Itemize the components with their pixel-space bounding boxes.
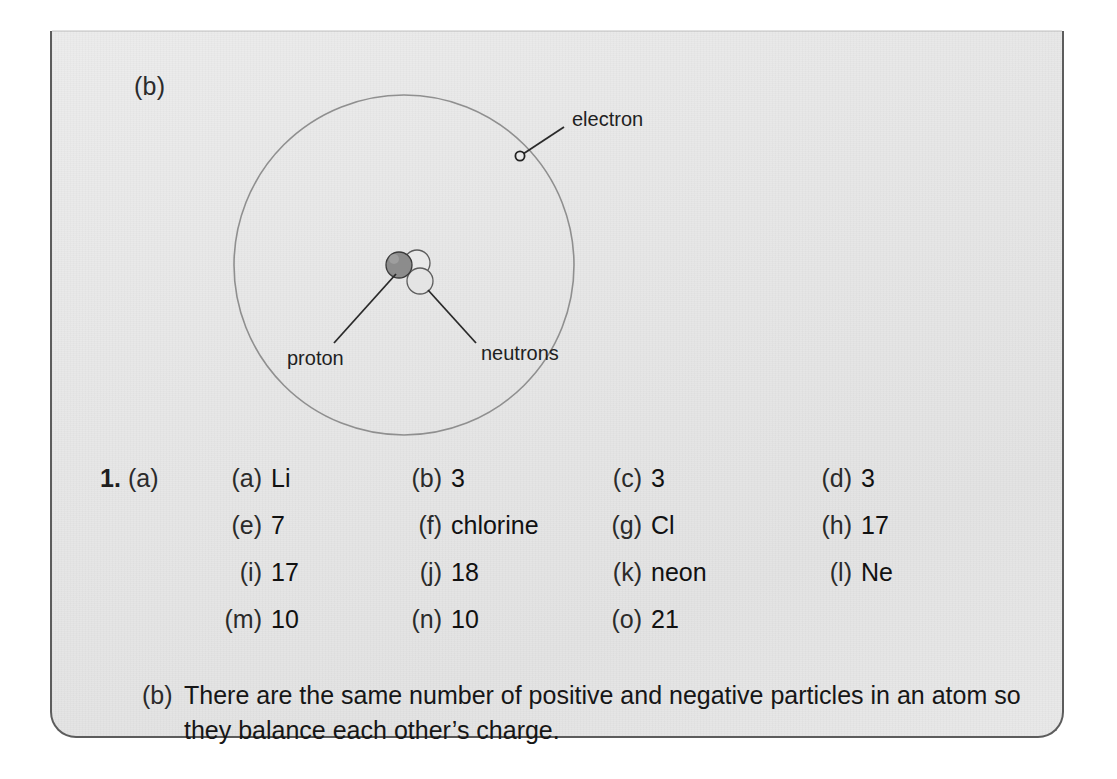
answer-panel: (b) electron [50, 28, 1064, 738]
closing-tag: (b) [142, 678, 173, 713]
neutrons-label: neutrons [481, 342, 559, 364]
answer-cell: (g)Cl [590, 511, 675, 540]
answer-cell: (i)17 [210, 558, 299, 587]
answer-row: (e)7 (f)chlorine (g)Cl (h)17 [100, 507, 1060, 554]
answer-tag: (d) [800, 464, 852, 493]
answer-cell: (e)7 [210, 511, 285, 540]
answer-value: chlorine [451, 511, 539, 539]
question-part: (a) [128, 464, 159, 493]
atom-diagram: electron proton neutrons [132, 50, 752, 450]
answer-tag: (h) [800, 511, 852, 540]
answer-tag: (j) [390, 558, 442, 587]
answer-value: Ne [861, 558, 893, 586]
answer-value: 10 [451, 605, 479, 633]
answer-tag: (i) [210, 558, 262, 587]
answer-tag: (e) [210, 511, 262, 540]
answer-tag: (l) [800, 558, 852, 587]
answer-tag: (c) [590, 464, 642, 493]
answer-cell: (o)21 [590, 605, 679, 634]
answer-tag: (k) [590, 558, 642, 587]
answer-value: Li [271, 464, 290, 492]
answer-value: neon [651, 558, 707, 586]
answer-value: 3 [861, 464, 875, 492]
answer-cell: (m)10 [210, 605, 299, 634]
answer-cell: (c)3 [590, 464, 665, 493]
answer-value: 17 [861, 511, 889, 539]
answer-cell: (a)Li [210, 464, 290, 493]
answer-tag: (o) [590, 605, 642, 634]
answer-value: 18 [451, 558, 479, 586]
neutrons-leader-line [428, 290, 476, 343]
closing-text: There are the same number of positive an… [184, 678, 1047, 748]
electron-label: electron [572, 108, 643, 130]
question-number: 1. [100, 464, 121, 493]
proton-particle [386, 252, 412, 278]
answer-value: 17 [271, 558, 299, 586]
atom-diagram-svg: electron proton neutrons [132, 50, 752, 450]
answer-value: 21 [651, 605, 679, 633]
scanned-page: (b) electron [0, 0, 1117, 779]
answer-tag: (n) [390, 605, 442, 634]
answer-value: Cl [651, 511, 675, 539]
electron-particle [515, 151, 524, 160]
answer-row: (i)17 (j)18 (k)neon (l)Ne [100, 554, 1060, 601]
answer-value: 3 [651, 464, 665, 492]
answer-row: (m)10 (n)10 (o)21 [100, 601, 1060, 648]
answer-tag: (m) [210, 605, 262, 634]
answer-cell: (f)chlorine [390, 511, 539, 540]
proton-label: proton [287, 347, 344, 369]
answer-cell: (j)18 [390, 558, 479, 587]
electron-leader-line [523, 127, 564, 154]
answer-tag: (g) [590, 511, 642, 540]
answer-cell: (b)3 [390, 464, 465, 493]
answer-cell: (d)3 [800, 464, 875, 493]
answer-cell: (k)neon [590, 558, 707, 587]
answer-tag: (a) [210, 464, 262, 493]
answer-cell: (l)Ne [800, 558, 893, 587]
answer-tag: (f) [390, 511, 442, 540]
answer-row: 1. (a) (a)Li (b)3 (c)3 (d)3 [100, 460, 1060, 507]
answer-cell: (n)10 [390, 605, 479, 634]
closing-paragraph: (b) There are the same number of positiv… [142, 678, 1047, 748]
answer-cell: (h)17 [800, 511, 889, 540]
answer-value: 3 [451, 464, 465, 492]
proton-leader-line [334, 274, 396, 343]
answer-value: 7 [271, 511, 285, 539]
answer-value: 10 [271, 605, 299, 633]
answer-tag: (b) [390, 464, 442, 493]
proton-highlight [389, 254, 399, 264]
answers-grid: 1. (a) (a)Li (b)3 (c)3 (d)3 (e)7 [100, 460, 1060, 648]
